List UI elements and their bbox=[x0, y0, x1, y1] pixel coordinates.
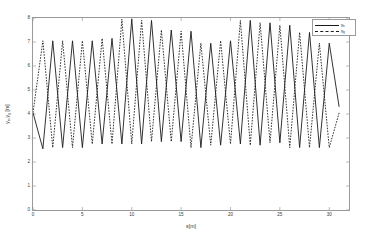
y-axis-label: ye,yg [m] bbox=[5, 104, 12, 124]
x-tick-label: 20 bbox=[228, 213, 233, 218]
series-line-ye bbox=[33, 19, 339, 149]
x-axis-label: s[m] bbox=[32, 224, 350, 229]
y-tick-label: 0 bbox=[27, 208, 30, 213]
legend-line-swatch bbox=[315, 31, 339, 32]
y-tick-label: 4 bbox=[27, 112, 30, 117]
legend-item: yg bbox=[315, 28, 353, 34]
legend-item-label: yg bbox=[341, 29, 345, 34]
chart-curves bbox=[33, 18, 349, 210]
legend-line-swatch bbox=[315, 25, 339, 26]
x-tick-label: 25 bbox=[277, 213, 282, 218]
y-tick-label: 1 bbox=[27, 184, 30, 189]
chart-legend: yeyg bbox=[312, 19, 356, 36]
y-axis-label-sub1: e bbox=[7, 119, 11, 121]
x-tick-label: 30 bbox=[327, 213, 332, 218]
y-axis-label-sub2: g bbox=[7, 113, 11, 115]
y-axis-label-base2: y bbox=[4, 115, 10, 118]
x-tick-label: 10 bbox=[129, 213, 134, 218]
y-tick-label: 8 bbox=[27, 16, 30, 21]
y-tick-label: 2 bbox=[27, 160, 30, 165]
y-axis-label-unit: [m] bbox=[4, 104, 10, 111]
figure-canvas: ye,yg [m] 012345678 051015202530 s[m] ye… bbox=[0, 0, 367, 245]
y-tick-label: 5 bbox=[27, 88, 30, 93]
tick-marks-group bbox=[33, 18, 349, 210]
plot-area: 012345678 051015202530 bbox=[32, 17, 350, 211]
x-tick-label: 5 bbox=[81, 213, 84, 218]
x-tick-label: 0 bbox=[32, 213, 35, 218]
y-tick-label: 3 bbox=[27, 136, 30, 141]
y-tick-label: 6 bbox=[27, 64, 30, 69]
y-axis-label-base1: y bbox=[4, 121, 10, 124]
y-tick-label: 7 bbox=[27, 40, 30, 45]
x-axis-label-unit: [m] bbox=[189, 223, 196, 229]
x-tick-label: 15 bbox=[179, 213, 184, 218]
